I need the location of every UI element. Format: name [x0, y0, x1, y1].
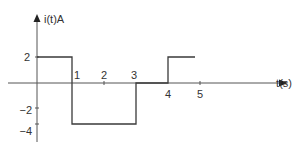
- x-axis-label: t(s): [276, 77, 292, 89]
- current-waveform: [37, 57, 195, 124]
- x-tick-5: 5: [197, 88, 203, 100]
- y-axis-arrow-icon: [34, 14, 41, 22]
- x-tick-1: 1: [74, 69, 80, 81]
- x-tick-2: 2: [101, 69, 107, 81]
- y-tick-neg2: −2: [19, 104, 32, 116]
- waveform-diagram: i(t)A t(s) 2 −2 −4 1 2 3 4 5: [0, 0, 295, 151]
- x-tick-4: 4: [165, 88, 171, 100]
- y-tick-neg4: −4: [19, 125, 32, 137]
- x-tick-3: 3: [131, 69, 137, 81]
- y-tick-2: 2: [24, 51, 30, 63]
- y-axis-label: i(t)A: [44, 13, 65, 25]
